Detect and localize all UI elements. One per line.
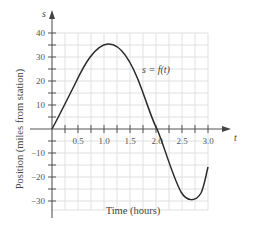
y-tick-label-m20: −20: [31, 172, 46, 182]
x-axis-arrow-icon: [222, 126, 231, 132]
y-axis-title: Position (miles from station): [14, 68, 26, 189]
y-tick-label-m10: −10: [31, 148, 46, 158]
curve-annotation: s = f(t): [142, 64, 171, 76]
axes: [30, 18, 222, 218]
x-axis-title: Time (hours): [106, 205, 161, 217]
x-tick-label-0.5: 0.5: [72, 136, 84, 146]
y-tick-label-m30: −30: [31, 196, 46, 206]
y-axis-arrow-icon: [49, 10, 55, 19]
y-tick-label-30: 30: [36, 52, 46, 62]
x-tick-label-1.0: 1.0: [98, 136, 110, 146]
x-tick-label-1.5: 1.5: [124, 136, 136, 146]
x-tick-label-3.0: 3.0: [202, 136, 214, 146]
y-tick-label-40: 40: [36, 28, 46, 38]
y-tick-label-20: 20: [36, 76, 46, 86]
y-tick-label-10: 10: [36, 100, 46, 110]
x-axis-variable: t: [234, 132, 237, 143]
position-time-chart: 40 30 20 10 −10 −20 −30 0.5 1.0 1.5 2.0 …: [0, 0, 254, 227]
x-tick-label-2.5: 2.5: [176, 136, 188, 146]
grid: [52, 33, 208, 210]
y-axis-variable: s: [42, 8, 46, 19]
